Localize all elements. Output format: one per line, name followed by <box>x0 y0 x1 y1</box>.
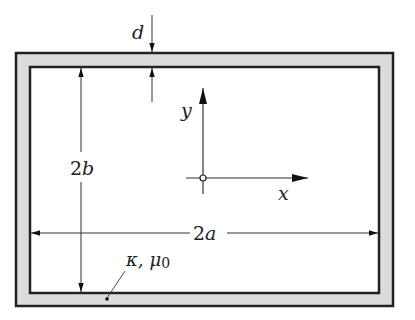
leader-dot <box>105 297 109 301</box>
height-label: 2b <box>70 157 94 179</box>
x-axis-label: x <box>278 182 289 204</box>
thickness-label: d <box>132 21 144 43</box>
origin-marker <box>200 175 206 181</box>
y-axis-label: y <box>180 99 192 121</box>
waveguide-diagram: d 2b 2a y x κ,μ0 <box>0 0 415 320</box>
width-label: 2a <box>193 222 216 244</box>
